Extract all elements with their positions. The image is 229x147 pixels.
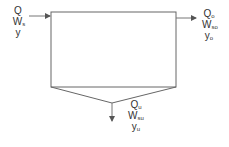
overflow-label-solids: Wso bbox=[198, 20, 222, 31]
overflow-label-fraction: yo bbox=[200, 31, 218, 42]
tank-body bbox=[51, 12, 176, 87]
tank-diagram bbox=[0, 0, 229, 147]
tank-cone bbox=[51, 87, 176, 103]
underflow-label-fraction: yu bbox=[127, 122, 145, 133]
inlet-label-fraction: y bbox=[12, 28, 24, 39]
